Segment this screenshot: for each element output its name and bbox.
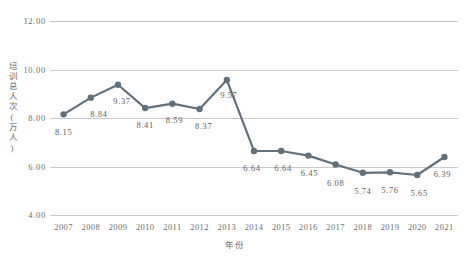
- y-axis-tick-labels: 12.0010.008.006.004.00: [0, 21, 46, 215]
- x-axis-tick-label: 2021: [435, 222, 454, 232]
- data-value-label: 5.74: [354, 186, 371, 196]
- data-point-marker: [169, 100, 175, 106]
- series-line: [64, 80, 445, 175]
- x-axis-line: [50, 215, 458, 216]
- data-value-label: 6.39: [434, 169, 451, 179]
- x-axis-tick-label: 2018: [353, 222, 372, 232]
- data-point-marker: [142, 105, 148, 111]
- x-axis-tick-labels: 2007200820092010201120122013201420152016…: [0, 222, 470, 236]
- data-point-marker: [88, 94, 94, 100]
- x-axis-tick-label: 2015: [272, 222, 291, 232]
- data-point-marker: [224, 77, 230, 83]
- data-value-label: 5.76: [381, 185, 398, 195]
- data-point-marker: [251, 148, 257, 154]
- x-axis-tick-label: 2012: [190, 222, 209, 232]
- x-axis-tick-label: 2017: [326, 222, 345, 232]
- y-axis-tick-label: 6.00: [28, 162, 46, 172]
- x-axis-tick-label: 2020: [408, 222, 427, 232]
- data-value-label: 9.37: [113, 96, 130, 106]
- data-point-marker: [60, 111, 66, 117]
- data-value-label: 9.57: [220, 90, 237, 100]
- line-chart: 培训总人次(万人) 12.0010.008.006.004.00 8.158.8…: [0, 0, 470, 261]
- x-axis-tick-label: 2011: [163, 222, 181, 232]
- data-value-label: 6.08: [327, 178, 344, 188]
- data-point-marker: [305, 152, 311, 158]
- x-axis-tick-label: 2009: [109, 222, 128, 232]
- data-value-label: 5.65: [411, 188, 428, 198]
- x-axis-tick-label: 2016: [299, 222, 318, 232]
- data-point-marker: [414, 172, 420, 178]
- x-axis-tick-label: 2014: [245, 222, 264, 232]
- data-point-marker: [360, 170, 366, 176]
- data-value-label: 8.15: [55, 127, 72, 137]
- x-axis-tick-label: 2010: [136, 222, 155, 232]
- x-axis-tick-label: 2007: [54, 222, 73, 232]
- y-axis-tick-label: 10.00: [23, 65, 46, 75]
- data-point-marker: [387, 169, 393, 175]
- x-axis-tick-label: 2008: [81, 222, 100, 232]
- data-value-label: 8.41: [137, 120, 154, 130]
- data-value-label: 6.64: [275, 163, 292, 173]
- data-value-label: 8.59: [166, 115, 183, 125]
- data-value-label: 8.37: [195, 121, 212, 131]
- x-axis-tick-label: 2019: [381, 222, 400, 232]
- data-point-marker: [441, 154, 447, 160]
- data-point-marker: [278, 148, 284, 154]
- data-point-marker: [196, 106, 202, 112]
- data-value-label: 6.45: [301, 168, 318, 178]
- data-value-label: 8.84: [90, 109, 107, 119]
- y-axis-tick-label: 8.00: [28, 113, 46, 123]
- y-axis-tick-label: 4.00: [28, 210, 46, 220]
- y-axis-tick-label: 12.00: [23, 16, 46, 26]
- data-point-marker: [332, 161, 338, 167]
- x-axis-tick-label: 2013: [217, 222, 236, 232]
- data-value-label: 6.64: [243, 163, 260, 173]
- x-axis-title: 年份: [0, 238, 470, 250]
- data-point-marker: [115, 82, 121, 88]
